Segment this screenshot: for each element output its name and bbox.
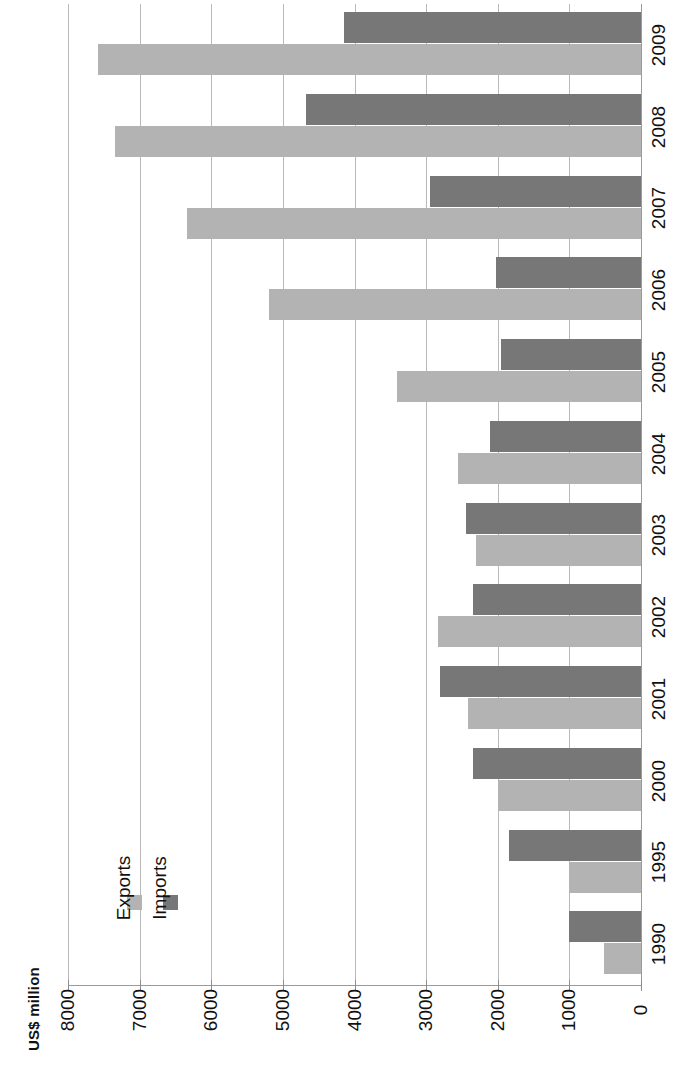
bar-exports-1990[interactable] — [604, 943, 641, 974]
bar-exports-2007[interactable] — [187, 208, 641, 239]
bar-exports-2008[interactable] — [115, 126, 641, 157]
bar-imports-2000[interactable] — [473, 748, 641, 779]
category-label-1995: 1995 — [648, 817, 670, 907]
bar-group-2001 — [68, 658, 641, 740]
bar-imports-2001[interactable] — [440, 666, 641, 697]
category-label-2009: 2009 — [648, 0, 670, 90]
gridline-0 — [641, 4, 642, 985]
chart-legend: ExportsImports — [118, 762, 190, 912]
bar-imports-2005[interactable] — [501, 339, 641, 370]
bar-imports-1995[interactable] — [509, 830, 642, 861]
legend-item-imports[interactable]: Imports — [154, 762, 188, 912]
value-label-4000: 4000 — [345, 975, 365, 1045]
value-label-8000: 8000 — [58, 975, 78, 1045]
category-label-1990: 1990 — [648, 899, 670, 989]
legend-item-exports[interactable]: Exports — [118, 762, 152, 912]
bar-group-2007 — [68, 168, 641, 250]
category-label-2005: 2005 — [648, 327, 670, 417]
bar-group-2006 — [68, 249, 641, 331]
bar-group-2009 — [68, 4, 641, 86]
bar-imports-2003[interactable] — [466, 503, 641, 534]
legend-label-imports: Imports — [149, 835, 171, 941]
bar-group-2003 — [68, 495, 641, 577]
bar-exports-2005[interactable] — [397, 371, 641, 402]
bar-group-2008 — [68, 86, 641, 168]
value-label-6000: 6000 — [201, 975, 221, 1045]
legend-label-exports: Exports — [113, 835, 135, 941]
value-label-7000: 7000 — [130, 975, 150, 1045]
bar-exports-1995[interactable] — [569, 862, 641, 893]
bar-exports-2003[interactable] — [476, 535, 641, 566]
value-label-5000: 5000 — [273, 975, 293, 1045]
bar-group-2002 — [68, 576, 641, 658]
bar-exports-2001[interactable] — [468, 698, 641, 729]
bar-exports-2004[interactable] — [458, 453, 641, 484]
category-label-2000: 2000 — [648, 736, 670, 826]
category-label-2003: 2003 — [648, 490, 670, 580]
category-label-2007: 2007 — [648, 163, 670, 253]
value-label-1000: 1000 — [559, 975, 579, 1045]
value-label-3000: 3000 — [416, 975, 436, 1045]
bar-group-2005 — [68, 331, 641, 413]
bar-group-2004 — [68, 413, 641, 495]
bar-imports-2002[interactable] — [473, 584, 641, 615]
value-label-2000: 2000 — [488, 975, 508, 1045]
bar-imports-1990[interactable] — [569, 911, 641, 942]
bar-exports-2000[interactable] — [498, 780, 641, 811]
bar-imports-2006[interactable] — [496, 257, 641, 288]
bar-imports-2004[interactable] — [490, 421, 641, 452]
category-label-2004: 2004 — [648, 409, 670, 499]
category-label-2006: 2006 — [648, 245, 670, 335]
category-label-2001: 2001 — [648, 654, 670, 744]
category-label-2008: 2008 — [648, 82, 670, 172]
bar-imports-2007[interactable] — [430, 176, 641, 207]
bar-chart-figure: US$ million 8000700060005000400030002000… — [0, 0, 699, 1078]
value-axis-title: US$ million — [25, 949, 47, 1069]
bar-exports-2006[interactable] — [269, 289, 641, 320]
bar-imports-2009[interactable] — [344, 12, 641, 43]
bar-imports-2008[interactable] — [306, 94, 641, 125]
category-label-2002: 2002 — [648, 572, 670, 662]
bar-exports-2002[interactable] — [438, 616, 641, 647]
bar-exports-2009[interactable] — [98, 44, 641, 75]
